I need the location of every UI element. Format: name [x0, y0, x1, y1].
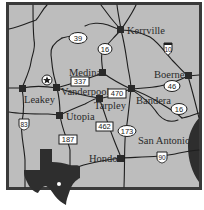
town-marker-utopia[interactable] [56, 112, 63, 119]
shield-187[interactable]: 187 [59, 135, 77, 144]
shield-16-south[interactable]: 16 [171, 104, 187, 115]
svg-text:83: 83 [20, 121, 28, 128]
star-icon[interactable] [42, 75, 52, 85]
svg-text:470: 470 [111, 89, 124, 98]
town-marker-boerne[interactable] [185, 72, 192, 79]
label-vanderpool: Vanderpool [61, 86, 109, 97]
shield-470[interactable]: 470 [108, 89, 126, 98]
shield-462[interactable]: 462 [96, 122, 113, 131]
shield-46[interactable]: 46 [164, 81, 180, 92]
town-marker-kerrville[interactable] [117, 26, 124, 33]
svg-text:90: 90 [158, 154, 166, 161]
shield-16-north[interactable]: 16 [98, 44, 112, 55]
shield-337[interactable]: 337 [71, 77, 89, 86]
town-marker-vanderpool[interactable] [53, 84, 60, 91]
label-san-antonio: San Antonio [138, 135, 190, 146]
svg-text:16: 16 [101, 45, 109, 54]
label-leakey: Leakey [24, 94, 56, 105]
svg-text:39: 39 [74, 34, 82, 43]
label-tarpley: Tarpley [94, 100, 127, 111]
label-bandera: Bandera [136, 95, 171, 106]
svg-text:10: 10 [164, 46, 172, 53]
label-kerrville: Kerrville [127, 25, 165, 36]
svg-text:337: 337 [74, 77, 87, 86]
label-hondo: Hondo [89, 153, 118, 164]
map-root: Kerrville Medina Vanderpool Leakey Boern… [0, 0, 204, 210]
town-marker-leakey[interactable] [19, 85, 26, 92]
svg-text:46: 46 [168, 82, 176, 91]
town-marker-bandera[interactable] [128, 85, 135, 92]
shield-83[interactable]: 83 [19, 119, 29, 130]
svg-text:173: 173 [121, 127, 134, 136]
svg-text:187: 187 [62, 135, 75, 144]
svg-text:462: 462 [98, 122, 111, 131]
svg-text:16: 16 [175, 105, 183, 114]
shield-90[interactable]: 90 [157, 152, 167, 163]
shield-10[interactable]: 10 [164, 43, 172, 55]
label-boerne: Boerne [154, 69, 185, 80]
town-marker-hondo[interactable] [117, 155, 124, 162]
shield-173[interactable]: 173 [118, 126, 136, 137]
label-utopia: Utopia [66, 111, 95, 122]
shield-39[interactable]: 39 [69, 33, 87, 44]
